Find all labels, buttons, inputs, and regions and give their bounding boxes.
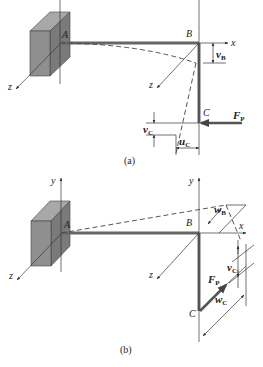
- point-c-label-b: C: [189, 308, 196, 319]
- deflected-curve-ab: [60, 43, 196, 63]
- wb-label: wB: [214, 203, 226, 217]
- uc-label: uC: [179, 135, 190, 149]
- figure-b: y z A y x B z wB vC: [8, 175, 254, 356]
- point-a-label: A: [61, 29, 69, 40]
- force-fp-label-b: FP: [207, 273, 220, 287]
- point-b-label-b: B: [186, 217, 192, 228]
- y-axis-label-b: y: [50, 175, 56, 186]
- z-axis-label: z: [7, 81, 12, 92]
- z-axis-b-b: [157, 233, 199, 279]
- point-c-label: C: [203, 107, 210, 118]
- deflected-curve-ab-b: [61, 205, 226, 233]
- x-axis-label-b: x: [238, 220, 244, 231]
- z-axis-label-b: z: [8, 270, 13, 281]
- figure-a: z A x B z vB C FP vC uC (a: [7, 0, 245, 167]
- vc-label: vC: [143, 123, 153, 137]
- vb-label: vB: [216, 48, 226, 62]
- caption-b: (b): [120, 344, 132, 356]
- z-axis-b: [157, 43, 199, 88]
- wc-label: wC: [215, 293, 227, 307]
- point-b-label: B: [186, 28, 192, 39]
- vc-diag-top: [232, 245, 254, 262]
- z-axis-b-label-b: z: [148, 269, 153, 280]
- point-a-label-b: A: [63, 219, 71, 230]
- y-axis-b-label: y: [188, 175, 194, 186]
- vc-ref-line-bottom: [146, 135, 176, 155]
- diagram-canvas: z A x B z vB C FP vC uC (a: [0, 0, 263, 367]
- force-fp-label: FP: [232, 109, 245, 123]
- caption-a: (a): [124, 155, 135, 167]
- x-axis-label: x: [230, 37, 236, 48]
- z-axis-b-label: z: [148, 79, 153, 90]
- vc-label-b: vC: [227, 261, 237, 275]
